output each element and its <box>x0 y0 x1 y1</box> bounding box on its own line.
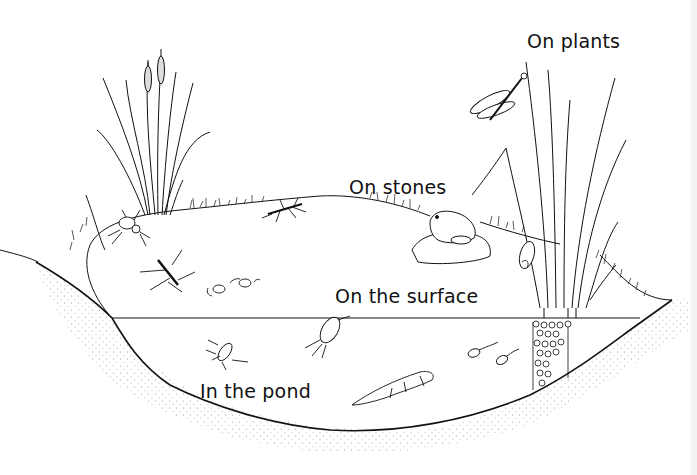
image-edge <box>691 0 697 475</box>
label-in-the-pond: In the pond <box>200 380 311 402</box>
bulrush-plant <box>86 49 210 250</box>
label-on-stones: On stones <box>349 176 446 198</box>
diving-beetle-icon <box>305 314 350 358</box>
tadpoles-icon <box>467 342 519 366</box>
water-measurer-icon <box>140 250 195 292</box>
pond-illustration <box>0 0 697 475</box>
damselfly-icon <box>468 73 527 122</box>
label-on-plants: On plants <box>527 30 620 52</box>
whirligig-beetles-icon <box>207 279 260 296</box>
snail-icon <box>517 240 538 271</box>
water-boatman-icon <box>206 340 248 370</box>
frog-icon <box>430 211 475 244</box>
pond-skater-icon <box>262 198 306 222</box>
label-on-the-surface: On the surface <box>335 285 478 307</box>
newt-icon <box>352 371 433 405</box>
